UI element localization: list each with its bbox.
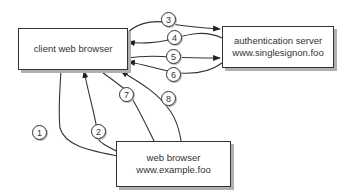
step-badge-4: 4 xyxy=(167,30,182,45)
step-badge-1: 1 xyxy=(32,125,47,140)
step-badge-6: 6 xyxy=(166,67,181,82)
step-badge-2: 2 xyxy=(91,124,106,139)
arrow-step-1 xyxy=(59,70,123,157)
step-badge-5: 5 xyxy=(166,49,181,64)
step-badge-8: 8 xyxy=(161,91,176,106)
web-browser-title: web browser xyxy=(147,152,201,164)
authentication-server-node: authentication server www.singlesignon.f… xyxy=(222,26,334,68)
step-badge-7: 7 xyxy=(119,87,134,102)
client-web-browser-node: client web browser xyxy=(18,28,128,70)
auth-server-domain: www.singlesignon.foo xyxy=(232,47,323,59)
step-badge-3: 3 xyxy=(161,12,176,27)
auth-server-title: authentication server xyxy=(234,35,322,47)
client-web-browser-label: client web browser xyxy=(34,43,113,55)
web-browser-domain: www.example.foo xyxy=(136,164,210,176)
web-browser-node: web browser www.example.foo xyxy=(116,141,231,187)
